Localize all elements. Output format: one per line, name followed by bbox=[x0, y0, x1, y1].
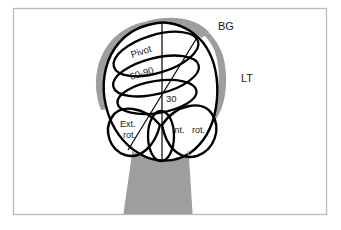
humerus-diagram: BG LT Pivot 60-90 30 Ext. rot. Int. rot. bbox=[0, 0, 341, 230]
label-int-rot-line2: rot. bbox=[192, 125, 205, 135]
label-lt: LT bbox=[241, 72, 253, 84]
label-int-rot-line1: Int. bbox=[172, 125, 185, 135]
label-30: 30 bbox=[166, 93, 177, 104]
figure-panel: BG LT Pivot 60-90 30 Ext. rot. Int. rot. bbox=[0, 0, 341, 230]
label-ext-rot-line2: rot. bbox=[123, 130, 136, 140]
label-bg: BG bbox=[218, 20, 234, 32]
label-ext-rot-line1: Ext. bbox=[120, 119, 136, 129]
